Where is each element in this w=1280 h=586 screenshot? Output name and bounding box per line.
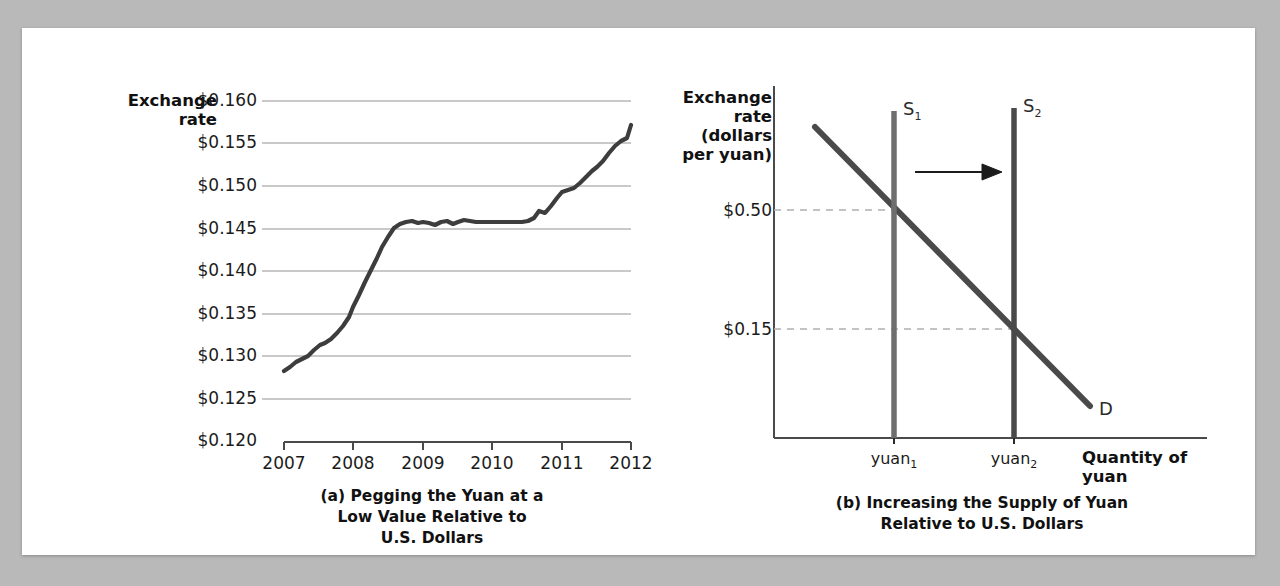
panel-b-x-axis-title: Quantity of yuan (1082, 448, 1202, 486)
panel-a-plot (22, 28, 662, 488)
rightward-shift-arrow (915, 164, 1002, 180)
panel-a-caption: (a) Pegging the Yuan at a Low Value Rela… (267, 486, 597, 549)
s2-label-text: S (1023, 95, 1034, 116)
s1-label-text: S (903, 98, 914, 119)
panel-a-exchange-rate-curve (284, 125, 631, 371)
yuan1-text: yuan (871, 449, 911, 468)
demand-curve-label: D (1099, 398, 1113, 419)
supply-curve-s1-label: S1 (903, 98, 921, 123)
demand-curve (815, 127, 1090, 406)
figure-container: Exchange rate $0.160 $0.155 $0.150 $0.14… (22, 28, 1255, 555)
yuan2-text: yuan (991, 449, 1031, 468)
supply-curve-s2-label: S2 (1023, 95, 1041, 120)
panel-a-line-chart: Exchange rate $0.160 $0.155 $0.150 $0.14… (22, 28, 662, 555)
s1-label-sub: 1 (914, 110, 921, 123)
figure-page: Exchange rate $0.160 $0.155 $0.150 $0.14… (22, 28, 1255, 555)
panel-b-x-tick-yuan2: yuan2 (982, 449, 1046, 471)
s2-label-sub: 2 (1034, 107, 1041, 120)
yuan1-sub: 1 (910, 458, 917, 471)
panel-b-x-tick-yuan1: yuan1 (862, 449, 926, 471)
panel-b-caption: (b) Increasing the Supply of Yuan Relati… (782, 493, 1182, 535)
panel-b-supply-demand-chart: Exchange rate (dollars per yuan) $0.50 $… (662, 28, 1255, 555)
panel-b-plot (662, 28, 1255, 488)
yuan2-sub: 2 (1030, 458, 1037, 471)
